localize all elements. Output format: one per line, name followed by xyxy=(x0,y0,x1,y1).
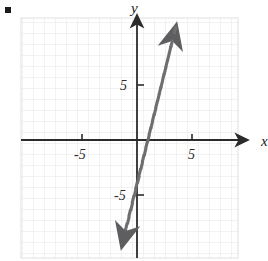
list-marker-icon xyxy=(5,7,11,13)
y-label-negative-5: -5 xyxy=(114,188,126,203)
x-axis-label: x xyxy=(260,133,268,149)
y-label-positive-5: 5 xyxy=(120,78,127,93)
y-axis-label: y xyxy=(129,0,138,16)
x-label-negative-5: -5 xyxy=(74,147,86,162)
x-label-positive-5: 5 xyxy=(188,147,195,162)
graph-figure: -5 5 5 -5 y x xyxy=(0,0,268,261)
grid xyxy=(21,18,238,258)
